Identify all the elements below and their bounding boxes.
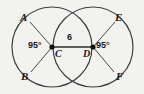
label-point-e: E — [115, 12, 122, 23]
label-angle-d: 95° — [96, 41, 110, 50]
label-point-c: C — [55, 49, 62, 59]
point-c-dot — [49, 44, 54, 49]
label-length-cd: 6 — [67, 33, 72, 42]
geometry-figure: A B E F C D 95° 95° 6 — [0, 0, 144, 94]
point-d-dot — [90, 44, 95, 49]
label-point-a: A — [20, 12, 27, 23]
label-point-d: D — [83, 49, 90, 59]
label-point-f: F — [116, 71, 123, 82]
label-angle-c: 95° — [28, 41, 42, 50]
label-point-b: B — [21, 71, 28, 82]
